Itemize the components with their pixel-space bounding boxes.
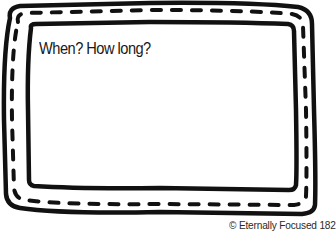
card-prompt: When? How long? (39, 39, 151, 59)
copyright-credit: © Eternally Focused 182 (229, 219, 336, 231)
